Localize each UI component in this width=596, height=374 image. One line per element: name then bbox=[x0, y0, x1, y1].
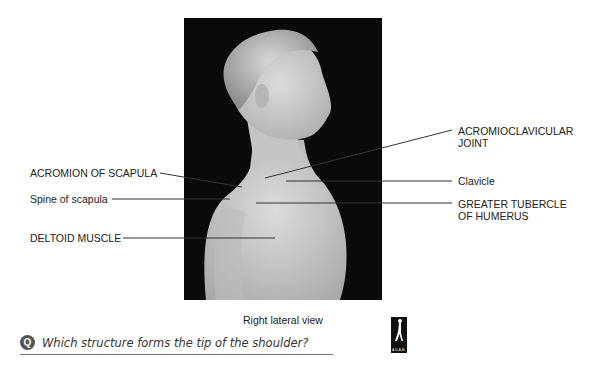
label-greater-tubercle: GREATER TUBERCLE OF HUMERUS bbox=[458, 198, 567, 222]
question-text: Which structure forms the tip of the sho… bbox=[42, 336, 308, 350]
question-icon: Q bbox=[20, 335, 35, 350]
label-spine-of-scapula: Spine of scapula bbox=[30, 193, 108, 205]
question-bar: Q Which structure forms the tip of the s… bbox=[20, 334, 333, 355]
label-line2: JOINT bbox=[458, 137, 573, 149]
view-caption: Right lateral view bbox=[243, 314, 323, 326]
adam-logo: A.D.A.M. bbox=[391, 317, 407, 353]
label-line1: GREATER TUBERCLE bbox=[458, 198, 567, 210]
label-line2: OF HUMERUS bbox=[458, 210, 567, 222]
logo-text: A.D.A.M. bbox=[391, 348, 407, 352]
label-clavicle: Clavicle bbox=[458, 175, 495, 187]
walking-figure-icon bbox=[391, 317, 407, 347]
leader-ac-joint bbox=[265, 130, 452, 178]
label-acromion: ACROMION OF SCAPULA bbox=[30, 167, 157, 179]
label-acromioclavicular-joint: ACROMIOCLAVICULAR JOINT bbox=[458, 125, 573, 149]
label-deltoid-muscle: DELTOID MUSCLE bbox=[30, 232, 121, 244]
label-line1: ACROMIOCLAVICULAR bbox=[458, 125, 573, 137]
leader-acromion bbox=[160, 173, 242, 187]
